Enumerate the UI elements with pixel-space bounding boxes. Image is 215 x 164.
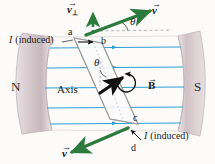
rotating-wire-loop (74, 38, 138, 124)
horizontal-reference-dashed (100, 30, 172, 31)
v-perp-overarrow: → (68, 0, 77, 8)
north-pole-label: N (11, 80, 20, 93)
current-induced-bottom: I(induced) (144, 131, 189, 141)
current-induced-top: I(induced) (9, 35, 54, 45)
velocity-vector-bottom (72, 128, 128, 152)
axis-label: Axis (57, 84, 78, 95)
velocity-perpendicular-label: → v⊥ (67, 4, 78, 17)
current-text-bottom: (induced) (150, 130, 188, 141)
loop-corner-b-label: b (101, 36, 106, 46)
velocity-top-label: → v (152, 5, 157, 16)
b-overarrow: → (148, 75, 157, 84)
v-bottom-overarrow: → (62, 143, 71, 152)
current-leader-top (62, 40, 73, 42)
current-symbol-bottom: I (144, 130, 147, 141)
current-symbol-top: I (9, 34, 12, 45)
current-direction-arrow-bottom (131, 130, 141, 140)
current-text-top: (induced) (15, 34, 53, 45)
v-perp-subscript: ⊥ (72, 9, 78, 17)
magnetic-field-label: → B (148, 80, 155, 91)
north-pole-piece (16, 33, 52, 134)
figure-canvas: → v⊥ → v θ a b I(induced) θ N S Axis → B… (0, 0, 215, 164)
v-top-overarrow: → (152, 0, 161, 9)
theta-top-label: θ (130, 16, 135, 27)
velocity-bottom-label: → v (62, 148, 67, 159)
south-pole-label: S (194, 80, 201, 93)
theta-inner-label: θ (94, 57, 99, 68)
loop-corner-c-label: c (133, 113, 137, 123)
loop-corner-d-label: d (131, 143, 136, 153)
rotation-direction-arrow (118, 74, 135, 92)
loop-corner-a-label: a (68, 27, 72, 37)
velocity-vector-top (86, 11, 150, 35)
